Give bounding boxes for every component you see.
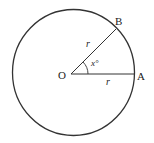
point-a-label: A	[137, 70, 145, 82]
circle	[13, 10, 135, 136]
point-b-label: B	[115, 15, 122, 27]
angle-arc	[83, 62, 88, 74]
radius-label-oa: r	[106, 76, 110, 87]
angle-label: x°	[90, 58, 99, 68]
center-label: O	[58, 69, 66, 81]
circle-diagram: O A B r r x°	[0, 0, 154, 143]
radius-label-ob: r	[86, 38, 90, 49]
